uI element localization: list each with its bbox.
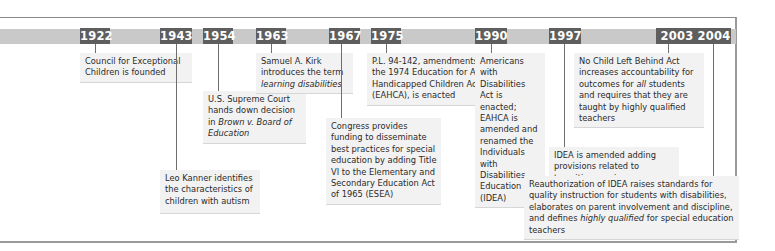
connector-line [564,44,565,147]
connector-line [713,44,714,177]
year-label: 2003 [656,28,698,44]
event-text-italic: highly qualified [580,213,644,223]
event-text: Leo Kanner identifies the characteristic… [165,173,253,206]
year-label: 2004 [697,28,731,44]
year-label: 1997 [549,28,581,44]
connector-line [668,44,669,53]
year-label: 1975 [371,28,401,44]
connector-line [176,44,177,170]
event-text: P.L. 94-142, amendments to the 1974 Educ… [372,56,489,100]
year-label: 1922 [80,28,110,44]
event-description: Congress provides funding to disseminate… [326,118,441,205]
event-text-italic: Brown v. Board of Education [208,117,292,138]
event-text-italic: all [636,79,646,89]
event-description: Samuel A. Kirk introduces the term learn… [256,53,353,94]
event-description: Reauthorization of IDEA raises standards… [524,176,739,240]
year-label: 1963 [256,28,286,44]
event-description: No Child Left Behind Act increases accou… [574,53,704,128]
year-label: 1943 [160,28,192,44]
event-description: U.S. Supreme Court hands down decision i… [203,91,306,144]
year-label: 1967 [329,28,360,44]
connector-line [218,44,219,92]
event-text: Council for Exceptional Children is foun… [85,56,180,77]
connector-line [341,44,342,119]
year-label: 1990 [475,28,507,44]
event-text: Samuel A. Kirk introduces the term [261,56,343,77]
event-description: Leo Kanner identifies the characteristic… [160,170,260,214]
year-label: 1954 [203,28,233,44]
event-text-italic: learning disabilities [261,79,342,89]
event-text: Congress provides funding to disseminate… [331,121,437,199]
